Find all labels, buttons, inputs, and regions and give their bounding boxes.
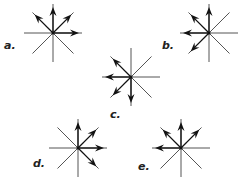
star-diagram-b bbox=[180, 4, 238, 62]
star-diagram-c bbox=[102, 48, 160, 106]
label-d: d. bbox=[33, 157, 45, 170]
label-c: c. bbox=[110, 108, 121, 121]
label-a: a. bbox=[4, 39, 16, 52]
arrow-diagrams-canvas bbox=[0, 0, 240, 181]
star-diagram-e bbox=[152, 119, 210, 177]
star-diagram-a bbox=[24, 4, 82, 62]
label-b: b. bbox=[162, 39, 174, 52]
label-e: e. bbox=[138, 160, 150, 173]
star-diagram-d bbox=[49, 119, 107, 177]
